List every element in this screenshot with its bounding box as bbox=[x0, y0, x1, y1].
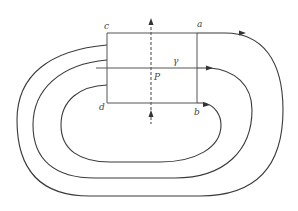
label-gamma: γ bbox=[173, 56, 179, 66]
middle-loop bbox=[33, 60, 252, 178]
label-b: b bbox=[194, 107, 200, 117]
label-a: a bbox=[197, 19, 202, 29]
axis-top-arrow-icon bbox=[149, 18, 154, 25]
middle-loop-arrow-icon bbox=[206, 66, 213, 71]
label-d: d bbox=[99, 102, 105, 112]
label-p: P bbox=[153, 72, 161, 82]
field-line-diagram: c a d b γ P bbox=[0, 0, 298, 211]
axis-bottom-arrow-icon bbox=[149, 110, 154, 117]
label-c: c bbox=[104, 21, 109, 31]
